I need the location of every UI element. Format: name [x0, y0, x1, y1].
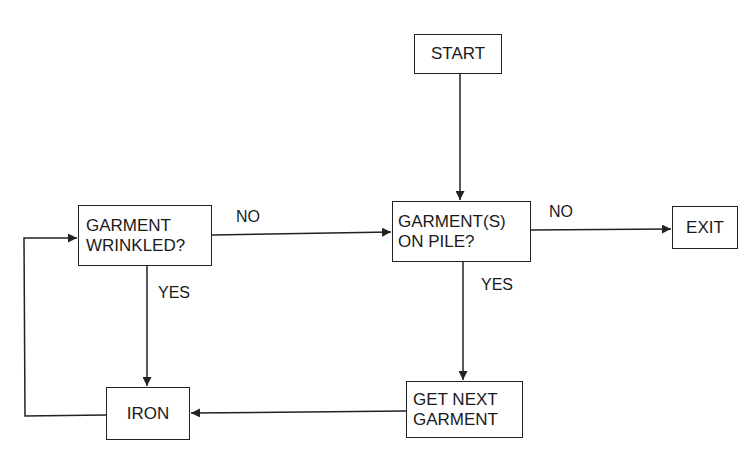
edge-label-wrinkled-yes: YES — [158, 284, 190, 302]
edge-label-onpile-yes: YES — [481, 276, 513, 294]
garments-on-pile-label: GARMENT(S) ON PILE? — [398, 212, 506, 252]
exit-node: EXIT — [672, 206, 738, 249]
edge-label-onpile-no: NO — [549, 203, 573, 221]
start-node-label: START — [431, 44, 485, 64]
exit-node-label: EXIT — [686, 218, 724, 238]
start-node: START — [414, 34, 502, 74]
edge-label-wrinkled-no: NO — [236, 208, 260, 226]
get-next-garment-node: GET NEXT GARMENT — [406, 381, 523, 438]
garment-wrinkled-decision: GARMENT WRINKLED? — [78, 205, 212, 266]
edge-getnext-to-iron — [191, 411, 406, 413]
iron-node-label: IRON — [127, 404, 170, 424]
edge-wrinkled-no-to-onpile — [212, 232, 391, 235]
get-next-garment-label: GET NEXT GARMENT — [413, 390, 498, 430]
edge-onpile-no-to-exit — [531, 229, 671, 230]
garments-on-pile-decision: GARMENT(S) ON PILE? — [392, 201, 531, 262]
iron-node: IRON — [106, 387, 190, 440]
garment-wrinkled-label: GARMENT WRINKLED? — [86, 216, 185, 256]
